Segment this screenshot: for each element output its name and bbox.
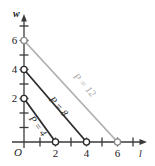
marker-p4-y bbox=[21, 95, 27, 101]
x-axis-label: l bbox=[139, 149, 142, 159]
origin-label: O bbox=[14, 147, 22, 158]
y-axis-arrowhead bbox=[21, 14, 27, 22]
marker-p4-x bbox=[52, 139, 58, 145]
marker-p8-y bbox=[21, 66, 27, 72]
x-tick-label-4: 4 bbox=[81, 148, 92, 159]
marker-p8-x bbox=[83, 139, 89, 145]
marker-p12-x bbox=[114, 139, 120, 145]
y-tick-label-4: 4 bbox=[9, 64, 20, 75]
x-tick-label-2: 2 bbox=[50, 148, 61, 159]
isoprofit-lines-figure: w l O 6 4 2 2 4 6 P = 4 P = 8 P = 12 bbox=[0, 0, 155, 166]
x-tick-label-6: 6 bbox=[112, 148, 123, 159]
x-axis-arrowhead bbox=[140, 139, 148, 145]
y-axis-label: w bbox=[13, 9, 20, 19]
y-tick-label-2: 2 bbox=[9, 93, 20, 104]
marker-p12-y bbox=[21, 37, 27, 43]
y-tick-label-6: 6 bbox=[9, 35, 20, 46]
